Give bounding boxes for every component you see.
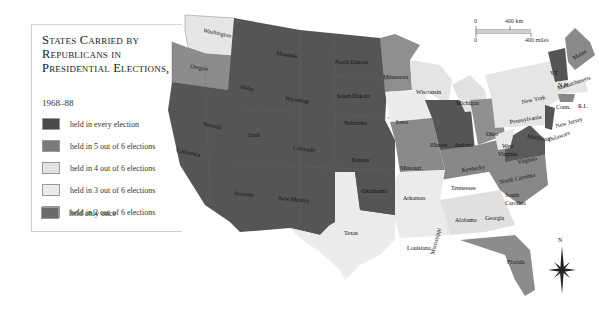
label-south-carolina: South <box>505 192 519 198</box>
label-alabama: Alabama <box>455 217 477 223</box>
label-tennessee: Tennessee <box>451 185 476 191</box>
label-illinois: Illinois <box>430 142 448 148</box>
label-arkansas: Arkansas <box>403 195 426 201</box>
label-ohio: Ohio <box>486 131 498 137</box>
label-wisconsin: Wisconsin <box>416 89 441 95</box>
label-new-hampshire: N.H. <box>558 82 570 88</box>
state-connecticut <box>558 94 575 102</box>
scale-mi-start: 0 <box>474 37 477 43</box>
label-west-virginia-2: Virginia <box>498 151 518 157</box>
label-georgia: Georgia <box>485 215 505 221</box>
label-minnesota: Minnesota <box>383 74 409 80</box>
label-delaware: Delaware <box>547 129 571 143</box>
label-kansas: Kansas <box>352 157 370 163</box>
label-rhode-island: R.I. <box>578 103 588 109</box>
label-missouri: Missouri <box>400 165 422 171</box>
label-iowa: Iowa <box>396 119 408 125</box>
label-south-dakota: South Dakota <box>337 93 370 99</box>
label-florida: Florida <box>507 259 525 265</box>
label-michigan: Michigan <box>456 100 479 106</box>
state-florida <box>460 235 535 296</box>
label-new-jersey: New Jersey <box>555 116 583 129</box>
state-new-jersey <box>545 105 555 130</box>
compass-north-label: N <box>558 237 563 243</box>
state-alabama-georgia <box>440 190 515 235</box>
label-vermont: VT <box>550 70 558 76</box>
label-indiana: Indiana <box>455 142 473 148</box>
label-louisiana: Louisiana <box>407 245 431 251</box>
label-connecticut: Conn. <box>556 104 571 110</box>
us-map: Washington Oregon California Nevada Idah… <box>0 0 599 318</box>
state-maine <box>565 28 595 70</box>
scale-km-start: 0 <box>474 18 477 24</box>
scale-mi-end: 400 miles <box>525 37 549 43</box>
label-south-carolina-2: Carolina <box>505 200 526 206</box>
label-utah: Utah <box>248 132 260 138</box>
label-nebraska: Nebraska <box>344 120 367 126</box>
label-west-virginia: West <box>502 143 514 149</box>
label-north-dakota: North Dakota <box>335 59 368 65</box>
label-oklahoma: Oklahoma <box>362 188 387 194</box>
compass-rose-icon: N <box>548 237 576 294</box>
scale-bar <box>476 26 531 37</box>
label-texas: Texas <box>344 230 359 236</box>
scale-km-end: 400 km <box>505 18 523 24</box>
